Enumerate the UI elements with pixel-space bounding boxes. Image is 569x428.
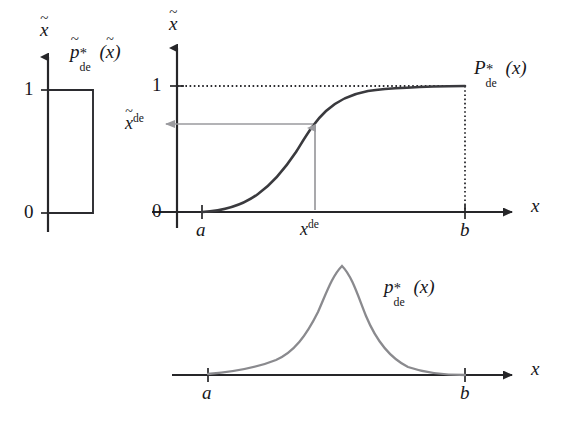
cdf-curve-label-base: P (474, 57, 486, 78)
uniform-curve-label-sub: de (80, 62, 91, 74)
cdf-x-marker-sup: de (308, 218, 319, 230)
pdf-tick-label-a: a (202, 383, 212, 402)
uniform-tick-label-zero: 0 (24, 202, 34, 221)
cdf-curve-label-paren-close: ) (520, 57, 526, 78)
cdf-curve-label: P*de(x) (474, 58, 527, 77)
uniform-density-panel (41, 57, 93, 232)
cdf-curve-label-star: * (486, 62, 493, 76)
uniform-y-axis-letter: x (40, 19, 48, 40)
pdf-curve-label-base: p (384, 276, 394, 297)
uniform-curve-label-star: * (80, 46, 87, 60)
cdf-tick-label-zero: 0 (152, 201, 162, 220)
cdf-x-marker-label: xde (300, 219, 319, 238)
uniform-y-axis-label: ~ x (40, 20, 48, 39)
pdf-curve-label-arg: x (420, 276, 428, 297)
cdf-y-axis-letter: x (169, 13, 177, 34)
cdf-y-axis-label: ~ x (169, 14, 177, 33)
uniform-curve-label-base: p (70, 41, 80, 62)
cdf-y-marker-label: ~ x de (125, 113, 144, 132)
cdf-curve (202, 86, 465, 212)
cdf-y-marker-sup: de (133, 112, 144, 124)
pdf-panel (172, 266, 512, 382)
pdf-curve-label: p*de(x) (384, 277, 435, 296)
figure-root: ~ x ~ p *de( ~ x ) 1 0 ~ x 1 0 ~ x de xd… (0, 0, 569, 428)
cdf-x-axis-label: x (531, 196, 539, 215)
cdf-panel (152, 48, 512, 228)
pdf-curve-label-star: * (394, 281, 401, 295)
pdf-curve-label-sub: de (394, 297, 405, 309)
uniform-curve-label: ~ p *de( ~ x ) (70, 42, 121, 61)
cdf-tick-label-b: b (460, 220, 470, 239)
pdf-x-axis-label: x (531, 359, 539, 378)
uniform-density-block (48, 90, 93, 213)
cdf-x-marker-base: x (300, 219, 308, 239)
uniform-curve-label-arg: x (106, 41, 114, 62)
cdf-tick-label-one: 1 (152, 75, 162, 94)
pdf-tick-label-b: b (460, 383, 470, 402)
pdf-curve-label-paren-close: ) (428, 276, 434, 297)
cdf-curve-label-sub: de (486, 78, 497, 90)
uniform-tick-label-one: 1 (24, 79, 34, 98)
cdf-tick-label-a: a (196, 220, 206, 239)
uniform-curve-label-paren-close: ) (114, 41, 120, 62)
cdf-y-marker-base: x (125, 113, 133, 133)
